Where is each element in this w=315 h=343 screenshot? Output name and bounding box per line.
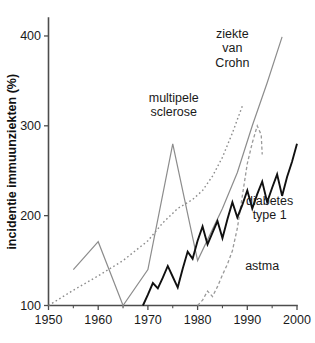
y-tick-label: 100: [20, 299, 41, 313]
chart-container: 100200300400195019601970198019902000inci…: [0, 0, 315, 343]
label-line: sclerose: [150, 105, 197, 119]
y-tick-label: 400: [20, 29, 41, 43]
y-axis-title: incidentie immuunziekten (%): [5, 74, 19, 250]
x-tick-label: 1950: [35, 313, 63, 327]
x-tick-label: 2000: [283, 313, 311, 327]
x-tick-label: 1970: [134, 313, 162, 327]
label-ziekte-van-crohn: ziektevanCrohn: [215, 27, 249, 70]
x-tick-label: 1960: [84, 313, 112, 327]
axes: 100200300400195019601970198019902000inci…: [5, 18, 311, 327]
label-astma: astma: [245, 259, 279, 273]
label-line: diabetes: [246, 194, 293, 208]
x-tick-label: 1980: [184, 313, 212, 327]
label-multipele-sclerose: multipelesclerose: [149, 91, 199, 120]
x-tick-label: 1990: [233, 313, 261, 327]
series-multipele-sclerose: [49, 106, 243, 305]
label-diabetes-type-1: diabetestype 1: [246, 194, 293, 223]
label-line: astma: [245, 259, 279, 273]
label-line: ziekte: [216, 27, 249, 41]
label-line: type 1: [253, 208, 287, 222]
label-line: van: [222, 41, 242, 55]
y-tick-label: 200: [20, 209, 41, 223]
incidence-line-chart: 100200300400195019601970198019902000inci…: [0, 0, 315, 343]
label-line: multipele: [149, 91, 199, 105]
label-line: Crohn: [215, 56, 249, 70]
y-tick-label: 300: [20, 119, 41, 133]
